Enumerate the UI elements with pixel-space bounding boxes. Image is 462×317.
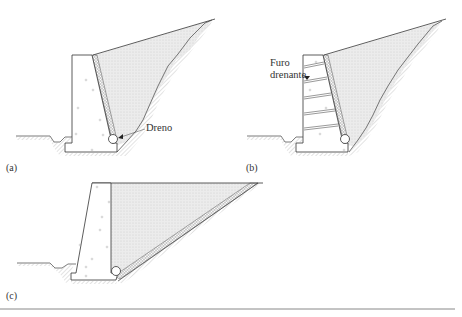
front-ground-hatch bbox=[247, 136, 303, 156]
panel-c-diagram bbox=[17, 183, 263, 284]
panel-a-diagram: Dreno bbox=[16, 19, 215, 156]
backfill-soil bbox=[111, 183, 250, 275]
panel-a-label: (a) bbox=[6, 162, 17, 174]
furo-callout-line2: drenante bbox=[270, 69, 306, 80]
panel-b-label: (b) bbox=[246, 162, 258, 174]
front-ground-hatch bbox=[16, 136, 72, 156]
panel-c-label: (c) bbox=[6, 290, 17, 302]
drain-pipe bbox=[112, 267, 121, 276]
panel-b-diagram: Furo drenante bbox=[247, 19, 446, 156]
dreno-callout: Dreno bbox=[146, 122, 172, 133]
footing-soil-hatch bbox=[296, 152, 348, 156]
front-ground-hatch bbox=[17, 263, 74, 283]
retaining-wall bbox=[71, 183, 118, 280]
retaining-wall-drainage-figure: Dreno (a) Furo drenante bbox=[0, 0, 462, 317]
furo-callout-line1: Furo bbox=[270, 57, 290, 68]
drain-pipe bbox=[341, 135, 350, 144]
footing-soil-hatch bbox=[71, 280, 118, 284]
drain-pipe bbox=[109, 135, 118, 144]
footing-soil-hatch bbox=[65, 152, 117, 156]
